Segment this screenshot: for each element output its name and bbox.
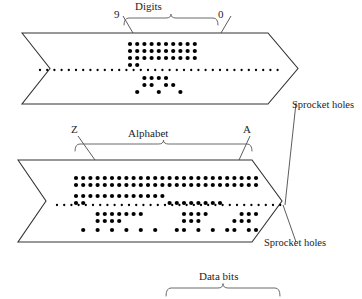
data-hole bbox=[74, 194, 78, 198]
data-hole bbox=[74, 176, 78, 180]
data-hole bbox=[196, 176, 200, 180]
sprocket-hole bbox=[132, 69, 134, 71]
data-hole bbox=[186, 42, 190, 46]
data-hole bbox=[139, 194, 143, 198]
data-hole bbox=[128, 42, 132, 46]
sprocket-hole bbox=[106, 204, 108, 206]
data-hole bbox=[247, 219, 251, 223]
data-hole bbox=[128, 49, 132, 53]
label-sprocket-holes-top: Sprocket holes bbox=[292, 100, 354, 111]
data-hole bbox=[160, 194, 164, 198]
data-hole bbox=[124, 183, 128, 187]
data-hole bbox=[96, 219, 100, 223]
data-hole bbox=[139, 228, 143, 232]
data-hole bbox=[81, 228, 85, 232]
sprocket-hole bbox=[70, 204, 72, 206]
data-hole bbox=[189, 219, 193, 223]
sprocket-hole bbox=[240, 69, 242, 71]
data-hole bbox=[117, 194, 121, 198]
sprocket-hole bbox=[221, 204, 223, 206]
data-hole bbox=[218, 176, 222, 180]
label-sprocket-holes-bottom: Sprocket holes bbox=[264, 238, 326, 249]
data-hole bbox=[74, 201, 78, 205]
sprocket-hole bbox=[157, 204, 159, 206]
data-hole bbox=[218, 183, 222, 187]
data-hole bbox=[150, 76, 154, 80]
data-hole bbox=[96, 194, 100, 198]
label-alphabet: Alphabet bbox=[128, 128, 168, 139]
sprocket-hole bbox=[128, 204, 130, 206]
data-hole bbox=[225, 183, 229, 187]
data-hole bbox=[254, 212, 258, 216]
label-digits-right-end: 0 bbox=[218, 9, 224, 20]
data-hole bbox=[146, 176, 150, 180]
data-hole bbox=[150, 83, 154, 87]
data-hole bbox=[132, 212, 136, 216]
data-hole bbox=[164, 83, 168, 87]
data-hole bbox=[164, 42, 168, 46]
data-hole bbox=[103, 219, 107, 223]
data-hole bbox=[168, 183, 172, 187]
data-hole bbox=[204, 212, 208, 216]
label-digits: Digits bbox=[135, 1, 162, 12]
data-hole bbox=[135, 49, 139, 53]
data-hole bbox=[232, 228, 236, 232]
data-hole bbox=[103, 176, 107, 180]
data-hole bbox=[157, 76, 161, 80]
data-hole bbox=[204, 176, 208, 180]
sprocket-hole bbox=[219, 69, 221, 71]
data-hole bbox=[254, 176, 258, 180]
data-hole bbox=[157, 49, 161, 53]
data-hole bbox=[117, 212, 121, 216]
data-hole bbox=[81, 201, 85, 205]
sprocket-hole bbox=[77, 204, 79, 206]
sprocket-hole bbox=[262, 69, 264, 71]
data-hole bbox=[110, 212, 114, 216]
data-hole bbox=[225, 176, 229, 180]
data-hole bbox=[175, 228, 179, 232]
data-hole bbox=[96, 212, 100, 216]
data-hole bbox=[211, 176, 215, 180]
data-hole bbox=[110, 194, 114, 198]
data-hole bbox=[88, 183, 92, 187]
sprocket-hole bbox=[118, 69, 120, 71]
data-hole bbox=[182, 228, 186, 232]
data-hole bbox=[164, 76, 168, 80]
data-hole bbox=[182, 183, 186, 187]
data-hole bbox=[135, 63, 139, 67]
data-hole bbox=[211, 201, 215, 205]
data-hole bbox=[96, 176, 100, 180]
data-hole bbox=[254, 228, 258, 232]
data-hole bbox=[211, 228, 215, 232]
data-hole bbox=[103, 194, 107, 198]
sprocket-hole bbox=[276, 69, 278, 71]
leader-alphabet-left bbox=[78, 136, 95, 160]
sprocket-hole bbox=[85, 204, 87, 206]
sprocket-hole bbox=[147, 69, 149, 71]
sprocket-hole bbox=[257, 204, 259, 206]
data-hole bbox=[186, 56, 190, 60]
data-hole bbox=[171, 49, 175, 53]
sprocket-hole bbox=[272, 204, 274, 206]
data-hole bbox=[189, 201, 193, 205]
data-hole bbox=[124, 228, 128, 232]
sprocket-hole bbox=[168, 69, 170, 71]
data-hole bbox=[189, 183, 193, 187]
data-hole bbox=[153, 228, 157, 232]
sprocket-hole bbox=[214, 204, 216, 206]
data-hole bbox=[110, 183, 114, 187]
data-hole bbox=[103, 212, 107, 216]
bracket-digits bbox=[124, 14, 218, 25]
sprocket-hole bbox=[140, 69, 142, 71]
data-hole bbox=[218, 201, 222, 205]
sprocket-hole bbox=[63, 204, 65, 206]
bracket-data-bits bbox=[166, 284, 280, 296]
sprocket-hole bbox=[46, 69, 48, 71]
sprocket-hole bbox=[197, 69, 199, 71]
data-hole bbox=[247, 183, 251, 187]
sprocket-hole bbox=[265, 204, 267, 206]
data-hole bbox=[81, 183, 85, 187]
data-hole bbox=[240, 176, 244, 180]
data-hole bbox=[146, 194, 150, 198]
sprocket-hole bbox=[250, 204, 252, 206]
